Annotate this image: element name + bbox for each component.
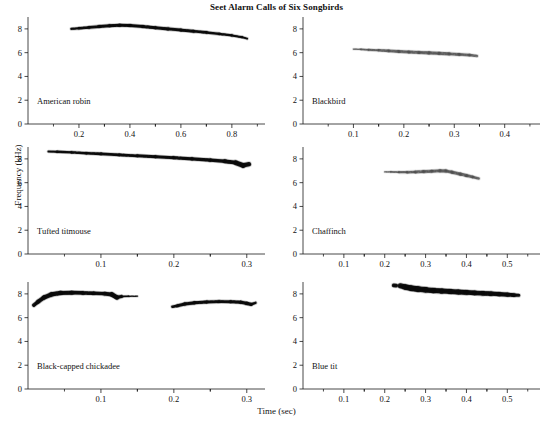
spectrogram-trace bbox=[394, 285, 519, 296]
x-tick-label: 0.5 bbox=[502, 394, 513, 404]
panel-canvas: 024680.10.20.30.40.5 bbox=[0, 0, 553, 427]
y-tick-label: 4 bbox=[293, 336, 298, 346]
y-tick-label: 6 bbox=[293, 313, 297, 323]
x-tick-label: 0.2 bbox=[379, 394, 390, 404]
x-tick-label: 0.4 bbox=[461, 394, 472, 404]
panel-species-label: Blue tit bbox=[312, 361, 337, 371]
y-tick-label: 0 bbox=[293, 384, 297, 394]
y-tick-label: 2 bbox=[293, 360, 297, 370]
y-tick-label: 8 bbox=[293, 289, 297, 299]
spectrogram-figure: Seet Alarm Calls of Six Songbirds Freque… bbox=[0, 0, 553, 427]
x-tick-label: 0.1 bbox=[339, 394, 350, 404]
x-tick-label: 0.3 bbox=[420, 394, 431, 404]
